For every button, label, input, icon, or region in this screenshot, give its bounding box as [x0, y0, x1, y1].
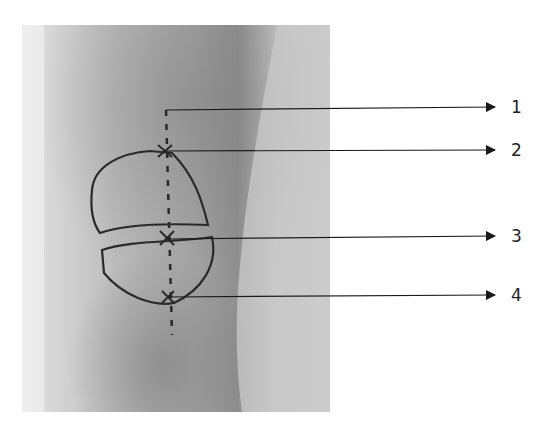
callout-arrow-1	[166, 107, 495, 110]
callout-label-1: 1	[511, 99, 522, 116]
callout-arrow-3	[166, 236, 495, 239]
callout-label-3: 3	[511, 228, 522, 245]
callout-arrows	[0, 0, 553, 431]
callout-label-4: 4	[511, 287, 522, 304]
callout-label-2: 2	[511, 142, 522, 159]
callout-arrow-2	[164, 150, 495, 151]
callout-arrow-4	[168, 295, 495, 297]
